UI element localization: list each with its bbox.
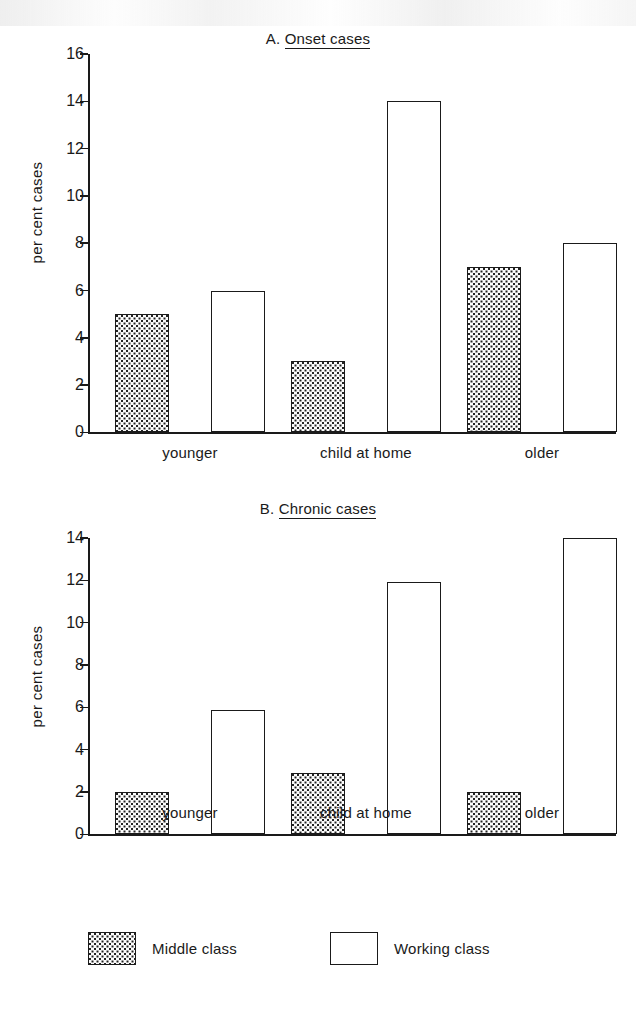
y-tick-label: 14 [66, 530, 84, 546]
y-tick-label: 10 [66, 188, 84, 204]
panel-a-y-axis [88, 54, 90, 434]
category-label-younger: younger [162, 804, 218, 821]
panel-a-title-prefix: A. [266, 30, 281, 47]
legend-item-middle-class: Middle class [88, 932, 237, 965]
bar-younger-middle-class [115, 792, 169, 834]
y-tick-label: 4 [75, 742, 84, 758]
y-tick-label: 0 [75, 826, 84, 842]
panel-a-title: A. Onset cases [0, 30, 636, 47]
panel-b-plot-area: 02468101214 per cent cases [88, 538, 616, 836]
panel-a-x-axis [88, 432, 616, 434]
chart-panel-chronic-cases: B. Chronic cases 02468101214 per cent ca… [0, 496, 636, 896]
panel-b-title: B. Chronic cases [0, 500, 636, 517]
category-label-child-at-home: child at home [320, 804, 412, 821]
panel-a-y-axis-label: per cent cases [28, 153, 45, 273]
category-label-child-at-home: child at home [320, 444, 412, 461]
category-label-older: older [525, 444, 559, 461]
category-label-younger: younger [162, 444, 218, 461]
category-label-older: older [525, 804, 559, 821]
y-tick-label: 14 [66, 93, 84, 109]
legend-label: Middle class [152, 940, 237, 957]
panel-b-y-axis [88, 538, 90, 836]
panel-b-y-axis-label: per cent cases [28, 617, 45, 737]
y-tick-label: 2 [75, 784, 84, 800]
y-tick-label: 10 [66, 615, 84, 631]
chart-legend: Middle classWorking class [0, 926, 636, 986]
legend-swatch-middle-class [88, 932, 136, 965]
y-tick-label: 6 [75, 283, 84, 299]
bar-child-at-home-middle-class [291, 361, 345, 432]
legend-label: Working class [394, 940, 490, 957]
y-tick-label: 2 [75, 377, 84, 393]
panel-b-x-axis [88, 834, 616, 836]
panel-b-title-main: Chronic cases [279, 500, 377, 519]
scan-bleedthrough-artifact [0, 0, 636, 26]
y-tick-label: 12 [66, 572, 84, 588]
bar-younger-middle-class [115, 314, 169, 432]
bar-child-at-home-working-class [387, 582, 441, 834]
bar-older-middle-class [467, 792, 521, 834]
bar-younger-working-class [211, 291, 265, 433]
bar-older-middle-class [467, 267, 521, 433]
bar-younger-working-class [211, 710, 265, 835]
bar-older-working-class [563, 538, 617, 834]
y-tick-label: 8 [75, 235, 84, 251]
bar-child-at-home-working-class [387, 101, 441, 432]
y-tick-label: 12 [66, 141, 84, 157]
y-tick-label: 6 [75, 699, 84, 715]
panel-b-title-prefix: B. [260, 500, 275, 517]
y-tick-label: 16 [66, 46, 84, 62]
panel-a-title-main: Onset cases [285, 30, 371, 49]
bar-older-working-class [563, 243, 617, 432]
y-tick-label: 4 [75, 330, 84, 346]
panel-a-plot-area: 0246810121416 per cent cases [88, 54, 616, 434]
y-tick-label: 0 [75, 424, 84, 440]
y-tick-label: 8 [75, 657, 84, 673]
chart-panel-onset-cases: A. Onset cases 0246810121416 per cent ca… [0, 26, 636, 496]
legend-swatch-working-class [330, 932, 378, 965]
legend-item-working-class: Working class [330, 932, 490, 965]
